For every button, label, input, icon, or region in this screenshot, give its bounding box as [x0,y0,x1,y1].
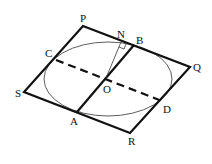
geometry-diagram: P Q R S A B C D O N [0,0,212,164]
label-o: O [103,83,111,95]
label-s: S [15,87,21,99]
label-q: Q [193,61,201,73]
segment-on [106,42,121,78]
label-a: A [70,115,78,127]
label-n: N [117,28,125,40]
label-b: B [136,34,143,46]
label-p: P [80,12,86,24]
label-c: C [45,47,52,59]
label-r: R [128,135,136,147]
label-d: D [163,103,171,115]
